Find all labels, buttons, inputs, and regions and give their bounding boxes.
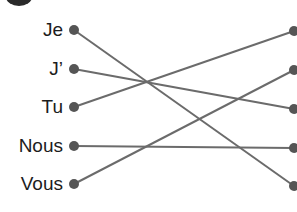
left-dot-1[interactable]	[69, 25, 79, 35]
left-dot-5[interactable]	[69, 179, 79, 189]
right-dot-3[interactable]	[289, 104, 297, 114]
line-tu	[74, 31, 294, 107]
left-dot-2[interactable]	[69, 64, 79, 74]
line-j	[74, 69, 294, 109]
right-dot-2[interactable]	[289, 65, 297, 75]
line-nous	[74, 146, 294, 148]
left-dot-4[interactable]	[69, 141, 79, 151]
right-dot-4[interactable]	[289, 143, 297, 153]
line-je	[74, 30, 294, 186]
matching-lines	[0, 0, 297, 212]
right-dot-1[interactable]	[289, 26, 297, 36]
line-vous	[74, 70, 294, 184]
left-dot-3[interactable]	[69, 102, 79, 112]
